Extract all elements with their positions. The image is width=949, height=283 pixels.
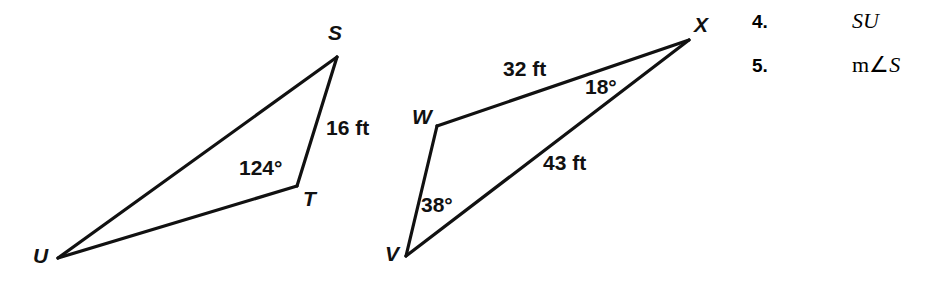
triangle-stu bbox=[58, 57, 337, 258]
vertex-label-s: S bbox=[328, 22, 342, 43]
vertex-label-v: V bbox=[385, 243, 399, 264]
vertex-label-x: X bbox=[694, 14, 708, 35]
problem-expression-4-variable: SU bbox=[852, 8, 879, 33]
vertex-label-t: T bbox=[303, 188, 316, 209]
side-st-length: 16 ft bbox=[326, 117, 369, 138]
problem-item-4[interactable]: 4. SU bbox=[752, 8, 942, 52]
problem-list: 4. SU 5. m∠S bbox=[752, 8, 942, 96]
vertex-label-w: W bbox=[412, 106, 432, 127]
problem-number-5: 5. bbox=[752, 55, 852, 77]
side-vx-length: 43 ft bbox=[543, 152, 586, 173]
triangle-vwx bbox=[406, 40, 689, 256]
side-wx-length: 32 ft bbox=[503, 58, 546, 79]
figure-page: S T U 16 ft 124° X W V 32 ft 18° 43 ft 3… bbox=[0, 0, 949, 283]
problem-expression-5: m∠S bbox=[852, 52, 900, 78]
problem-number-4: 4. bbox=[752, 11, 852, 33]
angle-x-measure: 18° bbox=[585, 76, 617, 97]
edge-u-s bbox=[58, 57, 337, 258]
problem-item-5[interactable]: 5. m∠S bbox=[752, 52, 942, 96]
problem-expression-5-variable: S bbox=[889, 52, 900, 77]
problem-expression-5-prefix: m∠ bbox=[852, 52, 889, 77]
angle-v-measure: 38° bbox=[421, 194, 453, 215]
edge-w-x bbox=[437, 40, 689, 126]
edge-v-x bbox=[406, 40, 689, 256]
problem-expression-4: SU bbox=[852, 8, 879, 34]
angle-t-measure: 124° bbox=[239, 157, 282, 178]
vertex-label-u: U bbox=[33, 245, 48, 266]
edge-t-u bbox=[58, 186, 297, 258]
